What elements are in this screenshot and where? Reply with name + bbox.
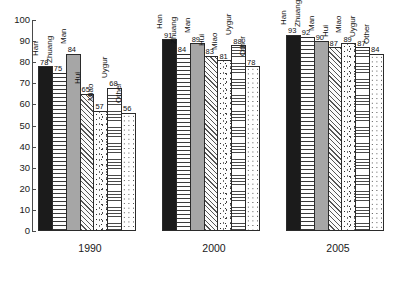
y-axis-tick-label: 50: [19, 121, 30, 131]
bar-value-label: 84: [371, 46, 379, 54]
y-axis-tick-mark: [32, 231, 36, 232]
bar-han[interactable]: 93Han: [286, 35, 301, 231]
bar-series-label: Han: [280, 10, 288, 25]
y-axis-tick-label: 90: [19, 36, 30, 46]
bar-series-label: Other: [363, 24, 371, 44]
bar-hui[interactable]: 65Hui: [80, 94, 95, 231]
bar-other[interactable]: 78Other: [245, 66, 260, 231]
bar-zhuang[interactable]: 75Zhuang: [52, 73, 67, 231]
bar-group-1990: 78Han75Zhuang84Man65Hui57Miao68Uygur56Ot…: [38, 20, 142, 231]
y-axis-tick-mark: [32, 126, 36, 127]
bar-miao[interactable]: 89Miao: [341, 43, 356, 231]
bar-value-label: 93: [288, 27, 296, 35]
bar-other[interactable]: 84Other: [369, 54, 384, 231]
bar-series-label: Han: [156, 14, 164, 29]
bar-series-label: Man: [308, 16, 316, 32]
y-axis-tick-mark: [32, 62, 36, 63]
y-axis-tick-label: 80: [19, 57, 30, 67]
y-axis-tick-mark: [32, 147, 36, 148]
x-axis-group-label: 2005: [286, 242, 390, 254]
x-axis-group-label: 1990: [38, 242, 142, 254]
y-axis-tick-label: 0: [25, 226, 30, 236]
bar-man[interactable]: 90Man: [314, 41, 329, 231]
bar-hui[interactable]: 87Hui: [328, 47, 343, 231]
bar-series-label: Zhuang: [294, 0, 302, 27]
bar-group-2000: 91Han84Zhuang89Man83Hui81Miao88Uygur78Ot…: [162, 20, 266, 231]
bar-uygur[interactable]: 88Uygur: [231, 45, 246, 231]
bar-miao[interactable]: 81Miao: [217, 60, 232, 231]
y-axis-tick-mark: [32, 83, 36, 84]
bar-series-label: Other: [239, 36, 247, 56]
bar-series-label: Hui: [74, 72, 82, 84]
bar-series-label: Other: [115, 83, 123, 103]
bar-series-label: Miao: [335, 16, 343, 33]
bar-group-bars: 78Han75Zhuang84Man65Hui57Miao68Uygur56Ot…: [38, 20, 142, 231]
y-axis-tick-mark: [32, 41, 36, 42]
bar-series-label: Man: [184, 18, 192, 34]
bar-chart: 0102030405060708090100 78Han75Zhuang84Ma…: [0, 0, 412, 282]
y-axis-tick-mark: [32, 168, 36, 169]
y-axis-tick-mark: [32, 210, 36, 211]
bar-hui[interactable]: 83Hui: [204, 56, 219, 231]
bar-zhuang[interactable]: 92Zhuang: [300, 37, 315, 231]
bar-series-label: Uygur: [101, 56, 109, 77]
y-axis-tick-label: 60: [19, 100, 30, 110]
bar-uygur[interactable]: 87Uygur: [355, 47, 370, 231]
y-axis-tick-mark: [32, 189, 36, 190]
bar-series-label: Han: [32, 42, 40, 57]
bar-group-bars: 93Han92Zhuang90Man87Hui89Miao87Uygur84Ot…: [286, 20, 390, 231]
bar-miao[interactable]: 57Miao: [93, 111, 108, 231]
bar-series-label: Zhuang: [46, 36, 54, 63]
y-axis-tick-label: 70: [19, 79, 30, 89]
bar-series-label: Hui: [198, 34, 206, 46]
bar-series-label: Hui: [322, 25, 330, 37]
bar-value-label: 56: [123, 105, 131, 113]
bar-zhuang[interactable]: 84Zhuang: [176, 54, 191, 231]
bar-value-label: 75: [54, 65, 62, 73]
bar-series-label: Zhuang: [170, 17, 178, 44]
bar-han[interactable]: 91Han: [162, 39, 177, 231]
y-axis-tick-mark: [32, 20, 36, 21]
bar-man[interactable]: 89Man: [190, 43, 205, 231]
bar-series-label: Man: [60, 28, 68, 44]
y-axis-tick-label: 20: [19, 184, 30, 194]
bar-series-label: Uygur: [225, 14, 233, 35]
y-axis-tick-label: 10: [19, 205, 30, 215]
y-axis-tick-label: 100: [14, 15, 30, 25]
bar-value-label: 81: [219, 53, 227, 61]
x-axis-group-label: 2000: [162, 242, 266, 254]
bar-value-label: 84: [68, 46, 76, 54]
bar-other[interactable]: 56Other: [121, 113, 136, 231]
bar-value-label: 84: [178, 46, 186, 54]
bar-value-label: 78: [247, 59, 255, 67]
bar-series-label: Miao: [211, 33, 219, 50]
bar-group-bars: 91Han84Zhuang89Man83Hui81Miao88Uygur78Ot…: [162, 20, 266, 231]
bar-series-label: Uygur: [349, 16, 357, 37]
bar-value-label: 87: [330, 40, 338, 48]
y-axis-tick-label: 40: [19, 142, 30, 152]
bar-value-label: 57: [95, 103, 103, 111]
y-axis-tick-labels: 0102030405060708090100: [0, 20, 30, 230]
bar-group-2005: 93Han92Zhuang90Man87Hui89Miao87Uygur84Ot…: [286, 20, 390, 231]
bar-han[interactable]: 78Han: [38, 66, 53, 231]
plot-area: 78Han75Zhuang84Man65Hui57Miao68Uygur56Ot…: [36, 20, 408, 231]
y-axis-tick-mark: [32, 104, 36, 105]
y-axis-tick-label: 30: [19, 163, 30, 173]
bar-series-label: Miao: [87, 83, 95, 100]
bar-uygur[interactable]: 68Uygur: [107, 88, 122, 231]
